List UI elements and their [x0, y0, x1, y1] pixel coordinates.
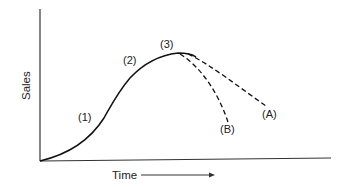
branch-b-label: (B)	[220, 123, 235, 135]
sales-curve-diagram: (1) (2) (3) (A) (B) Sales Time	[0, 0, 347, 187]
branch-a-label: (A)	[262, 108, 277, 120]
stage-2-label: (2)	[123, 54, 136, 66]
y-axis-label: Sales	[20, 71, 32, 100]
branch-a-curve	[188, 54, 266, 106]
stage-1-label: (1)	[78, 111, 91, 123]
x-axis	[40, 158, 331, 161]
main-sales-curve	[40, 53, 196, 161]
time-arrow-head-icon	[209, 173, 215, 178]
x-axis-label: Time	[112, 169, 137, 181]
stage-3-label: (3)	[160, 38, 173, 50]
branch-b-curve	[180, 54, 228, 122]
